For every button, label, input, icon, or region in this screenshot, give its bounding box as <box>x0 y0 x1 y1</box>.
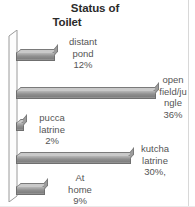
bar-pucca-latrine[interactable] <box>16 122 24 131</box>
bar-at-home[interactable] <box>16 186 45 195</box>
bar-distant-pond[interactable] <box>16 52 55 61</box>
chart-title: Status of Toilet <box>0 1 176 29</box>
bar-label-line: 2% <box>24 135 80 147</box>
bar-open-field-jungle[interactable] <box>16 90 156 99</box>
plot-area: distant pond 12% open field/ju ngle 36% … <box>0 30 195 207</box>
bar-label-kutcha-latrine: kutcha latrine 30%, <box>128 143 182 178</box>
bar-label-line: latrine <box>24 124 80 136</box>
bar-label-line: field/ju <box>154 86 192 98</box>
bar-label-line: 9% <box>55 195 105 207</box>
bar-label-line: pond <box>55 48 111 60</box>
bar-label-line: home <box>55 184 105 196</box>
bar-label-line: latrine <box>128 155 182 167</box>
toilet-status-chart: Status of Toilet distant pond 12% open f… <box>0 0 195 207</box>
bar-label-line: pucca <box>24 112 80 124</box>
bar-label-line: 30%, <box>128 166 182 178</box>
bar-label-line: ngle <box>154 97 192 109</box>
bar-label-open-field-jungle: open field/ju ngle 36% <box>154 74 192 120</box>
bar-label-line: distant <box>55 36 111 48</box>
bar-label-line: kutcha <box>128 143 182 155</box>
bar-label-line: 12% <box>55 59 111 71</box>
bar-label-line: At <box>55 172 105 184</box>
chart-title-line-1: Status of <box>0 1 176 15</box>
bar-kutcha-latrine[interactable] <box>16 155 131 164</box>
chart-title-line-2: Toilet <box>0 15 176 29</box>
bar-label-line: 36% <box>154 109 192 121</box>
bar-label-line: open <box>154 74 192 86</box>
bar-label-at-home: At home 9% <box>55 172 105 207</box>
bar-label-pucca-latrine: pucca latrine 2% <box>24 112 80 147</box>
bar-label-distant-pond: distant pond 12% <box>55 36 111 71</box>
